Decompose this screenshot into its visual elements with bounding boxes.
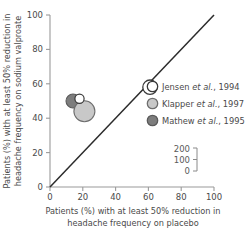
x-axis-title-line1: Patients (%) with at least 50% reduction…: [45, 206, 220, 216]
y-tick-label-20: 20: [32, 148, 43, 158]
x-axis-title-line2: headache frequency on placebo: [67, 218, 199, 228]
x-tick-label-60: 60: [143, 192, 154, 202]
x-tick-label-100: 100: [206, 192, 222, 202]
y-tick-label-60: 60: [32, 79, 43, 89]
x-axis-ticks: [50, 187, 214, 191]
size-scale-label-0: 0: [185, 166, 190, 176]
y-tick-label-0: 0: [38, 182, 43, 192]
data-point-klapper[interactable]: [74, 101, 95, 122]
y-axis-title-line2: headache frequency on sodium valproate: [13, 16, 23, 187]
y-axis-title-line1: Patients (%) with at least 50% reduction…: [2, 13, 12, 188]
y-tick-label-40: 40: [32, 113, 43, 123]
legend-marker-klapper[interactable]: [147, 98, 157, 108]
legend-marker-mathew[interactable]: [147, 115, 157, 125]
size-scale-label-100: 100: [174, 155, 190, 165]
x-tick-label-40: 40: [110, 192, 121, 202]
y-tick-label-100: 100: [27, 10, 43, 20]
y-axis-ticks: [46, 15, 50, 187]
scatter-chart-figure: 0 20 40 60 80 100 0 20 40 60 80 100: [0, 0, 245, 233]
y-tick-label-80: 80: [32, 44, 43, 54]
x-tick-label-20: 20: [77, 192, 88, 202]
legend-label-mathew: Mathew et al., 1995: [162, 116, 245, 126]
x-tick-label-80: 80: [176, 192, 187, 202]
legend-label-jensen: Jensen et al., 1994: [161, 82, 240, 92]
plot-area: 0 20 40 60 80 100 0 20 40 60 80 100: [0, 0, 245, 233]
legend: Jensen et al., 1994 Klapper et al., 1997…: [147, 81, 244, 125]
x-tick-label-0: 0: [47, 192, 52, 202]
legend-marker-jensen[interactable]: [147, 81, 157, 91]
size-scale-label-200: 200: [174, 144, 190, 154]
marker-size-scale: 200 100 0: [174, 144, 197, 176]
data-points: [66, 80, 157, 122]
data-point-jensen-small[interactable]: [75, 94, 84, 103]
legend-label-klapper: Klapper et al., 1997: [162, 99, 244, 109]
